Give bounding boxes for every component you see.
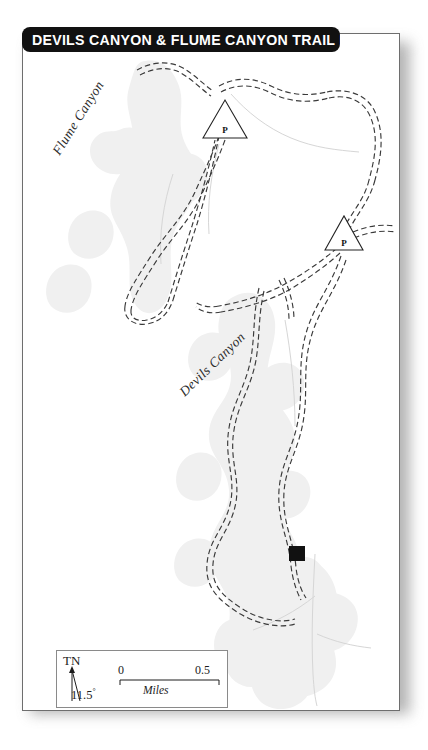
scale-bar (119, 679, 223, 687)
degree-symbol: ° (92, 687, 95, 696)
trail-map-page: P P DEVILS CANYON & FLUME CANYON TRAIL M… (0, 0, 428, 750)
declination-value: 11.5° (71, 687, 96, 703)
scale-max-label: 0.5 (195, 663, 210, 678)
trail-terminus-marker[interactable] (289, 546, 305, 561)
page-title: DEVILS CANYON & FLUME CANYON TRAIL MAP (32, 32, 372, 48)
parking-marker-east[interactable]: P (325, 216, 363, 250)
svg-text:P: P (222, 125, 228, 135)
scale-min-label: 0 (118, 663, 124, 678)
scale-units-label: Miles (143, 684, 169, 696)
scale-and-declination-box: TN 11.5° 0 0.5 Miles (56, 650, 228, 708)
map-title-banner: DEVILS CANYON & FLUME CANYON TRAIL MAP (22, 27, 340, 52)
parking-marker-north[interactable]: P (203, 100, 247, 138)
declination-number: 11.5 (71, 688, 92, 702)
svg-text:P: P (341, 238, 347, 248)
